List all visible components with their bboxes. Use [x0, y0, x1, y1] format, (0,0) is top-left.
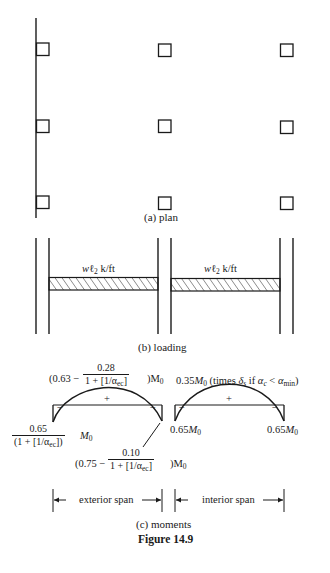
- column: [159, 44, 172, 57]
- distributed-load-exterior: [49, 278, 158, 291]
- span-label-interior: interior span: [200, 495, 257, 506]
- load-label-exterior: wℓ2 k/ft: [82, 264, 115, 276]
- minus-sign: −: [150, 403, 156, 414]
- label-ext-neg-interior-fraction: 0.10 1 + [1/αec]: [108, 448, 154, 472]
- plus-sign-interior: +: [226, 394, 232, 405]
- label-ext-positive-close: )M0: [147, 374, 164, 386]
- label-ext-positive-fraction: 0.28 1 + [1/αec]: [83, 363, 129, 387]
- label-int-neg-left: 0.65M0: [170, 425, 201, 437]
- load-label-interior: wℓ2 k/ft: [204, 264, 237, 276]
- column: [281, 121, 294, 134]
- column: [159, 120, 172, 133]
- distributed-load-interior: [171, 279, 280, 292]
- minus-sign: −: [272, 403, 278, 414]
- column: [281, 197, 294, 210]
- figure-title: Figure 14.9: [138, 534, 193, 546]
- loading-view: [36, 238, 293, 334]
- plus-sign-exterior: +: [104, 394, 110, 405]
- label-ext-positive-open: (0.63 −: [49, 374, 79, 385]
- plan-view: [36, 18, 293, 218]
- column: [37, 120, 50, 133]
- label-ext-neg-interior-close: )M0: [170, 459, 187, 471]
- label-int-neg-right: 0.65M0: [267, 425, 298, 437]
- moment-diagram: [53, 384, 284, 512]
- figure-drawing: [0, 0, 330, 573]
- span-label-exterior: exterior span: [77, 495, 136, 506]
- label-ext-neg-exterior-m: M0: [80, 431, 93, 443]
- leader-line: [143, 423, 160, 447]
- minus-sign: −: [179, 403, 185, 414]
- column: [37, 43, 50, 56]
- label-ext-neg-exterior-fraction: 0.65 (1 + [1/αec]): [12, 424, 65, 448]
- column: [37, 196, 50, 209]
- label-int-positive: 0.35M0 (times δs if αc < αmin): [176, 376, 299, 388]
- minus-sign: −: [57, 403, 63, 414]
- caption-plan: (a) plan: [144, 212, 178, 223]
- caption-loading: (b) loading: [138, 342, 187, 353]
- label-ext-neg-interior-open: (0.75 −: [75, 459, 105, 470]
- column: [159, 197, 172, 210]
- column: [281, 44, 294, 57]
- caption-moments: (c) moments: [136, 519, 191, 530]
